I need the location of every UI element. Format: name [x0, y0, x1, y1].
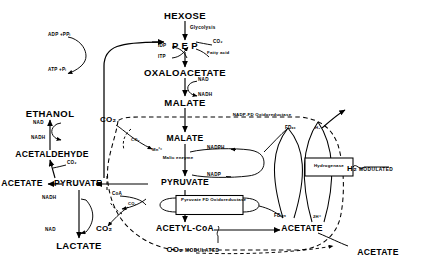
- line-pep-to-pyruvate-backbone: [104, 42, 160, 178]
- curve-adp-atp: [72, 38, 86, 72]
- fd-cycle-left: [274, 128, 288, 218]
- line-to-fdox: [264, 128, 288, 152]
- label-fatty-acid: Fatty acid: [207, 50, 229, 56]
- label-nad-oaa: NAD: [198, 78, 209, 83]
- fd-cycle-right: [288, 128, 302, 218]
- label-co2-inner-lower: CO₂: [128, 202, 137, 206]
- line-acetate-export: [318, 233, 348, 246]
- arrow-h2-out: [322, 110, 345, 128]
- label-h2-modulated: H₂ MODULATED: [347, 163, 393, 173]
- label-two-h-plus: 2H⁺: [313, 215, 321, 219]
- label-co2-modulated: CO₂ MODULATED: [167, 244, 220, 254]
- label-atp-pi: ATP +Pᵢ: [48, 68, 66, 73]
- curve-co2-pep: [196, 42, 212, 45]
- tick-co2-modulated: [217, 226, 219, 243]
- label-fd-red: FDᵣₑₔ: [274, 214, 286, 219]
- label-acetyl-coa: ACETYL-CoA: [156, 224, 214, 233]
- label-lactate: LACTATE: [56, 241, 102, 251]
- label-nadp-fd-oxidoreductase: NADP-FD Oxidoreductase: [231, 112, 293, 118]
- curve-nadh-nad-lactate: [86, 200, 93, 232]
- label-adp-ppi: ADP +PPᵢ: [48, 33, 70, 38]
- label-co2-outer-upper: CO₂: [100, 116, 116, 124]
- label-fd-ox: FDₒₓ: [285, 126, 296, 131]
- lobe-left-pfor: [160, 198, 176, 212]
- label-nadph: NADPH: [207, 146, 225, 151]
- label-nadh-ethanol: NADH: [31, 136, 45, 141]
- label-malate-inner: MALATE: [167, 134, 204, 143]
- label-co2-pep: CO₂: [213, 40, 223, 45]
- label-co2-acetaldehyde: CO₂: [67, 161, 77, 166]
- label-hexose: HEXOSE: [164, 11, 206, 21]
- label-pyruvate-inner: PYRUVATE: [161, 178, 209, 187]
- label-nad-ethanol: NAD: [33, 121, 44, 126]
- label-acetate-outer: ACETATE: [357, 248, 398, 257]
- label-idp: IDP: [158, 44, 166, 49]
- label-pep: P E P: [172, 41, 198, 51]
- pathway-diagram: HEXOSE Glycolysis P E P CO₂ IDP ITP Fatt…: [0, 0, 436, 270]
- label-co2-inner-upper: CO₂: [131, 138, 140, 142]
- label-mn: Mn²⁺: [152, 148, 162, 152]
- label-nad-lactate: NAD: [45, 228, 56, 233]
- label-co2-outer-lower: CO₂: [96, 225, 112, 233]
- label-malic-enzyme: Malic enzyme: [162, 155, 194, 161]
- dashed-co2-lower: [110, 202, 122, 214]
- label-hydrogenase: Hydrogenase: [307, 163, 351, 169]
- curve-nad-nadh-ethanol: [52, 124, 57, 139]
- label-oxaloacetate: OXALOACETATE: [144, 68, 226, 78]
- label-nadh-lactate: NADH: [42, 196, 56, 201]
- label-acetate-inner: ACETATE: [281, 224, 322, 233]
- label-pyruvate-fd-oxidoreductase: Pyruvate FD Oxidoreductase: [181, 197, 238, 203]
- arrow-pyruvate-to-acetaldehyde: [50, 160, 55, 178]
- loop-malic-enzyme-cofactors: [190, 149, 264, 178]
- dashed-co2-upper: [123, 129, 131, 150]
- label-acetaldehyde: ACETALDEHYDE: [15, 150, 89, 159]
- label-coa: CoA: [112, 192, 122, 197]
- label-nadp: NADP: [207, 173, 221, 178]
- label-itp: ITP: [158, 55, 166, 60]
- label-ethanol: ETHANOL: [26, 109, 75, 119]
- label-glycolysis: Glycolysis: [190, 26, 215, 31]
- curve-co2-acetaldehyde: [53, 165, 66, 168]
- label-malate-outer: MALATE: [164, 98, 205, 108]
- label-acetate-left: ACETATE: [1, 179, 42, 188]
- label-h2-inner: H₂: [315, 126, 320, 130]
- label-pyruvate-outer: PYRUVATE: [54, 179, 102, 188]
- curve-nad-nadh-oaa: [188, 82, 193, 95]
